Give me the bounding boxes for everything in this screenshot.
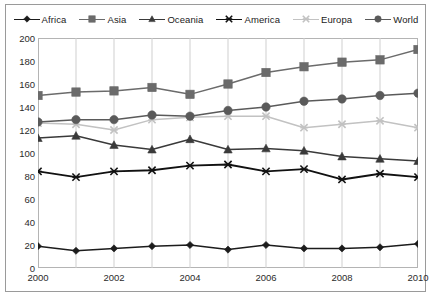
y-axis-tick: 200	[5, 33, 35, 44]
chart-canvas	[38, 38, 418, 268]
y-axis-tick: 80	[5, 171, 35, 182]
x-axis-tick: 2000	[27, 272, 48, 283]
legend-item-asia[interactable]: Asia	[79, 14, 126, 25]
y-axis-labels: 020406080100120140160180200	[5, 30, 35, 276]
legend-label: America	[244, 14, 280, 25]
legend-item-world[interactable]: World	[365, 14, 418, 25]
x-axis-tick: 2010	[407, 272, 428, 283]
y-axis-tick: 140	[5, 102, 35, 113]
legend-label: Oceania	[167, 14, 203, 25]
y-axis-tick: 20	[5, 240, 35, 251]
y-axis-tick: 180	[5, 56, 35, 67]
x-axis-tick: 2006	[255, 272, 276, 283]
y-axis-tick: 100	[5, 148, 35, 159]
plot-area-wrapper	[38, 38, 418, 268]
legend-marker-diamond-icon	[14, 14, 40, 25]
legend-marker-x-icon	[216, 14, 242, 25]
legend-label: Africa	[42, 14, 67, 25]
y-axis-tick: 60	[5, 194, 35, 205]
x-axis-tick: 2002	[103, 272, 124, 283]
x-axis-tick: 2008	[331, 272, 352, 283]
legend-marker-square-icon	[79, 14, 105, 25]
legend-marker-circle-icon	[365, 14, 391, 25]
legend-item-africa[interactable]: Africa	[14, 14, 67, 25]
legend-item-oceania[interactable]: Oceania	[139, 14, 203, 25]
legend-marker-triangle-icon	[139, 14, 165, 25]
y-axis-tick: 160	[5, 79, 35, 90]
chart-legend: AfricaAsiaOceaniaAmericaEuropaWorld	[0, 10, 432, 28]
legend-marker-x-icon	[293, 14, 319, 25]
legend-item-europa[interactable]: Europa	[293, 14, 352, 25]
x-axis-labels: 200020022004200620082010	[38, 272, 418, 288]
chart-figure: AfricaAsiaOceaniaAmericaEuropaWorld 0204…	[0, 0, 432, 299]
legend-label: Asia	[107, 14, 126, 25]
y-axis-tick: 40	[5, 217, 35, 228]
legend-label: World	[393, 14, 418, 25]
legend-item-america[interactable]: America	[216, 14, 280, 25]
y-axis-tick: 120	[5, 125, 35, 136]
legend-label: Europa	[321, 14, 352, 25]
x-axis-tick: 2004	[179, 272, 200, 283]
